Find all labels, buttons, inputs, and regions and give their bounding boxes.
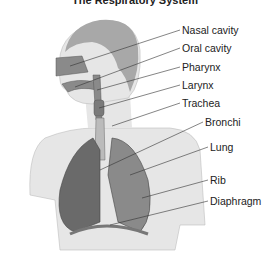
label-bronchi: Bronchi	[205, 116, 241, 128]
respiratory-illustration	[0, 0, 270, 273]
label-oral-cavity: Oral cavity	[182, 42, 232, 54]
label-lung: Lung	[210, 141, 233, 153]
label-nasal-cavity: Nasal cavity	[182, 24, 239, 36]
label-trachea: Trachea	[182, 97, 220, 109]
label-larynx: Larynx	[182, 79, 214, 91]
label-pharynx: Pharynx	[182, 61, 221, 73]
label-rib: Rib	[210, 174, 226, 186]
label-diaphragm: Diaphragm	[210, 195, 261, 207]
